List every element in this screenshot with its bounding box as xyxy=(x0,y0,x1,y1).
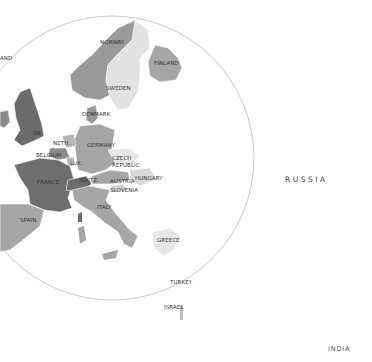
country-spain[interactable] xyxy=(0,204,44,252)
label-denmark: DENMARK xyxy=(82,112,110,118)
island-sicily[interactable] xyxy=(102,250,118,260)
country-germany[interactable] xyxy=(74,124,116,174)
label-neth: NETH. xyxy=(53,141,70,147)
country-ireland[interactable] xyxy=(0,110,10,128)
label-switz: SWITZ. xyxy=(79,178,99,184)
label-iceland: AND xyxy=(0,56,12,62)
label-uk: UK xyxy=(33,131,41,137)
label-germany: GERMANY xyxy=(87,143,115,149)
label-greece: GREECE xyxy=(157,238,180,244)
label-israel: ISRAEL xyxy=(164,305,184,311)
island-corsica[interactable] xyxy=(78,212,82,222)
label-finland: FINLAND xyxy=(154,61,179,67)
label-norway: NORWAY xyxy=(100,40,124,46)
label-turkey: TURKEY xyxy=(170,280,192,286)
label-india: INDIA xyxy=(328,346,350,353)
label-hungary: HUNGARY xyxy=(135,176,163,182)
label-slovenia: SLOVENIA xyxy=(110,188,138,194)
label-lux: LUX. xyxy=(70,161,83,167)
label-czech-2: REPUBLIC xyxy=(112,163,140,169)
label-spain: SPAIN xyxy=(20,218,36,224)
island-sardinia[interactable] xyxy=(78,226,86,244)
country-uk[interactable] xyxy=(14,88,44,146)
label-austria: AUSTRIA xyxy=(110,179,135,185)
label-france: FRANCE xyxy=(37,180,60,186)
label-italy: ITALY xyxy=(97,205,112,211)
label-belgium: BELGIUM xyxy=(36,153,62,159)
label-czech-1: CZECH xyxy=(112,156,132,162)
label-russia: RUSSIA xyxy=(285,176,328,184)
label-sweden: SWEDEN xyxy=(106,86,131,92)
